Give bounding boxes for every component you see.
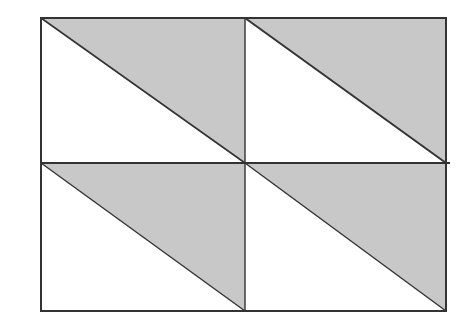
grid-diagram <box>0 0 467 324</box>
